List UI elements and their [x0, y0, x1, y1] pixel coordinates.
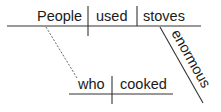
relative-subject-word: who: [77, 76, 105, 92]
object-word: stoves: [143, 8, 185, 24]
verb-word: used: [96, 8, 127, 24]
subject-word: People: [37, 8, 82, 24]
relative-verb-word: cooked: [120, 76, 167, 92]
relative-connector-dashed: [46, 27, 77, 78]
sentence-diagram: People used stoves enormous who cooked: [0, 0, 221, 112]
modifier-word: enormous: [168, 27, 214, 91]
